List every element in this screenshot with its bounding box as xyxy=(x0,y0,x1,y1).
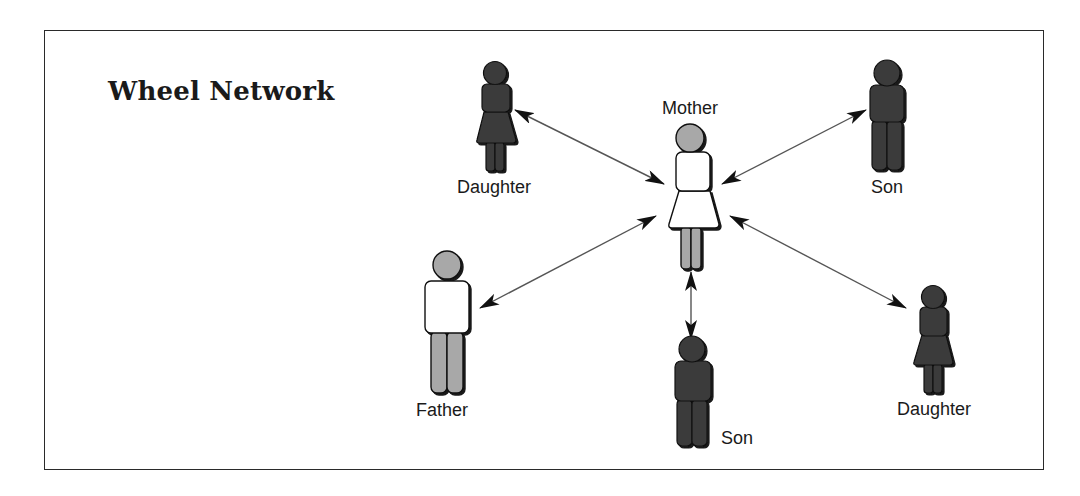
node-daughter-2 xyxy=(914,286,953,394)
male-figure-icon xyxy=(870,60,904,170)
node-label-son-1: Son xyxy=(871,177,903,197)
edge-mother-daughter-2 xyxy=(730,216,906,308)
edge-mother-father xyxy=(480,216,656,308)
node-label-daughter-2: Daughter xyxy=(897,399,971,419)
node-label-mother: Mother xyxy=(662,98,718,118)
female-figure-icon xyxy=(669,124,719,269)
node-mother xyxy=(669,124,719,269)
node-label-father: Father xyxy=(416,400,468,420)
node-daughter-1 xyxy=(477,62,516,172)
node-father xyxy=(425,251,469,393)
edge-mother-daughter-1 xyxy=(515,110,664,184)
male-figure-icon xyxy=(425,251,469,393)
wheel-network-diagram: Daughter Mother Son Father xyxy=(0,0,1080,496)
node-son-1 xyxy=(870,60,904,170)
node-son-2 xyxy=(675,336,711,446)
edge-mother-son-1 xyxy=(722,110,866,184)
node-label-daughter-1: Daughter xyxy=(457,177,531,197)
node-label-son-2: Son xyxy=(721,428,753,448)
female-figure-icon xyxy=(477,62,516,172)
female-figure-icon xyxy=(914,286,953,394)
male-figure-icon xyxy=(675,336,711,446)
